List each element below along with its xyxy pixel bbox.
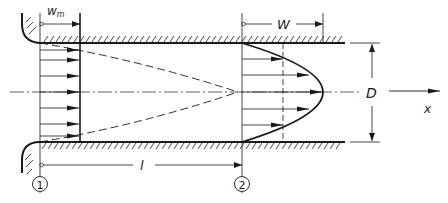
entrance-length-label: l [140,158,144,173]
pipe-flow-diagram: wm W D x l 1 2 [0,0,448,203]
bottom-wall [22,142,345,174]
x-axis-label: x [423,102,432,116]
entrance-length-dimension: l [40,158,242,173]
top-wall [22,13,345,43]
station-1-marker: 1 [33,177,48,192]
svg-text:2: 2 [239,179,246,192]
svg-text:1: 1 [37,179,44,192]
mean-velocity-dimension: wm [40,4,80,26]
station-2-marker: 2 [235,177,250,192]
mean-velocity-label: wm [47,4,65,19]
boundary-layer-lines [40,43,238,142]
max-velocity-label: W [277,17,291,32]
developed-parabolic-profile [242,13,323,193]
inlet-uniform-profile [40,13,80,193]
max-velocity-dimension: W [242,17,323,32]
diameter-label: D [366,85,377,101]
